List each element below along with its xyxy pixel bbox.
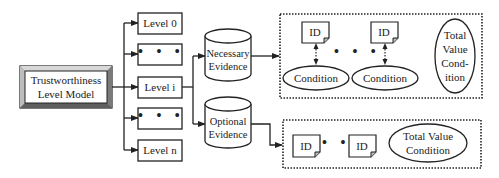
level-ellipsis-label: • • • bbox=[138, 46, 182, 58]
id-label: ID bbox=[302, 26, 328, 38]
root-label-line2: Level Model bbox=[25, 88, 107, 100]
condition-label: Condition bbox=[352, 72, 418, 84]
necessary-evidence-line2: Evidence bbox=[205, 61, 251, 73]
total-line1: Total bbox=[435, 29, 475, 41]
root-node-box bbox=[20, 66, 112, 108]
total-value-line1: Total Value bbox=[389, 130, 467, 142]
id-label: ID bbox=[293, 140, 319, 152]
id-label: ID bbox=[349, 140, 375, 152]
total-line3: Cond- bbox=[435, 57, 475, 69]
condition-label: Condition bbox=[283, 72, 349, 84]
level-i-label: Level i bbox=[138, 81, 182, 93]
optional-evidence-line1: Optional bbox=[205, 116, 251, 128]
optional-evidence-line2: Evidence bbox=[205, 129, 251, 141]
necessary-ellipsis: • • • bbox=[334, 46, 368, 58]
level-n-label: Level n bbox=[138, 144, 182, 156]
total-line2: Value bbox=[435, 43, 475, 55]
optional-ellipsis: • • bbox=[322, 137, 348, 149]
necessary-evidence-line1: Necessary bbox=[205, 48, 251, 60]
level-0-label: Level 0 bbox=[138, 17, 182, 29]
total-line4: ition bbox=[435, 71, 475, 83]
id-label: ID bbox=[371, 26, 397, 38]
total-value-line2: Condition bbox=[389, 144, 467, 156]
root-label-line1: Trustworthiness bbox=[25, 74, 107, 86]
level-ellipsis-label: • • • bbox=[138, 110, 182, 122]
